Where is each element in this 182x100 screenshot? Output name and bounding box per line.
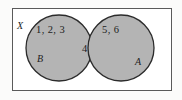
set-a-name-label: A xyxy=(135,57,141,67)
intersection-elements-label: 4 xyxy=(82,44,88,55)
set-a-circle xyxy=(88,15,154,81)
set-a-exclusive-elements-label: 5, 6 xyxy=(102,25,119,36)
venn-diagram-figure: X 1, 2, 3 5, 6 4 B A xyxy=(0,0,182,100)
set-b-exclusive-elements-label: 1, 2, 3 xyxy=(36,25,65,36)
venn-circles-graphic xyxy=(12,8,172,91)
universal-set-label: X xyxy=(17,21,23,31)
set-b-name-label: B xyxy=(37,54,43,64)
